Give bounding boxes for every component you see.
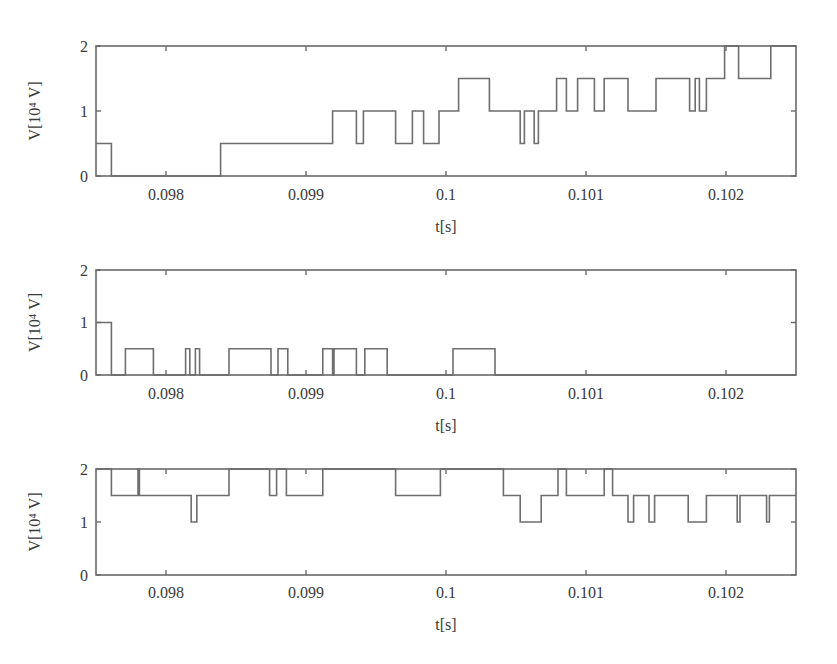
- y-axis-label: V[10⁴ V]: [26, 492, 43, 551]
- x-tick-label: 0.102: [708, 186, 744, 203]
- x-tick-label: 0.099: [288, 385, 324, 402]
- voltage-trace: [96, 46, 796, 176]
- y-tick-label: 1: [80, 514, 88, 531]
- x-tick-label: 0.099: [288, 584, 324, 601]
- axes-frame: [96, 270, 796, 375]
- y-tick-label: 1: [80, 314, 88, 331]
- figure: 0.0980.0990.10.1010.102012t[s]V[10⁴ V] 0…: [0, 0, 837, 664]
- y-tick-label: 2: [80, 38, 88, 55]
- x-axis-label: t[s]: [435, 218, 456, 235]
- x-axis-label: t[s]: [435, 616, 456, 633]
- x-tick-label: 0.1: [436, 186, 456, 203]
- subplot-2: 0.0980.0990.10.1010.102012t[s]V[10⁴ V]: [26, 262, 796, 435]
- y-tick-label: 0: [80, 567, 88, 584]
- y-tick-label: 1: [80, 103, 88, 120]
- y-axis-label: V[10⁴ V]: [26, 293, 43, 352]
- x-tick-label: 0.098: [148, 186, 184, 203]
- subplot-1: 0.0980.0990.10.1010.102012t[s]V[10⁴ V]: [26, 38, 796, 236]
- x-tick-label: 0.101: [568, 385, 604, 402]
- y-tick-label: 0: [80, 367, 88, 384]
- voltage-trace: [96, 469, 796, 522]
- x-tick-label: 0.101: [568, 584, 604, 601]
- x-tick-label: 0.102: [708, 385, 744, 402]
- y-axis-label: V[10⁴ V]: [26, 81, 43, 140]
- x-tick-label: 0.1: [436, 584, 456, 601]
- y-tick-label: 2: [80, 262, 88, 279]
- voltage-trace: [96, 323, 796, 376]
- x-tick-label: 0.102: [708, 584, 744, 601]
- x-tick-label: 0.101: [568, 186, 604, 203]
- y-tick-label: 0: [80, 168, 88, 185]
- subplot-3: 0.0980.0990.10.1010.102012t[s]V[10⁴ V]: [26, 461, 796, 634]
- x-tick-label: 0.1: [436, 385, 456, 402]
- x-tick-label: 0.098: [148, 584, 184, 601]
- x-tick-label: 0.098: [148, 385, 184, 402]
- x-tick-label: 0.099: [288, 186, 324, 203]
- y-tick-label: 2: [80, 461, 88, 478]
- x-axis-label: t[s]: [435, 417, 456, 434]
